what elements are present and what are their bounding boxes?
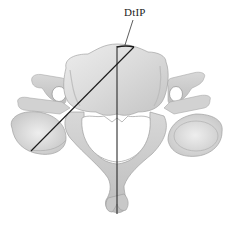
angle-label: DtIP — [124, 6, 146, 18]
vertebra-illustration — [0, 0, 232, 228]
left-transverse-process — [18, 74, 70, 114]
left-articular-facet — [11, 112, 66, 155]
right-transverse-process — [164, 72, 210, 114]
vertebral-body — [64, 44, 168, 115]
vertebra-diagram: DtIP — [0, 0, 232, 228]
right-articular-facet — [168, 114, 222, 156]
label-leader-line — [125, 20, 133, 45]
